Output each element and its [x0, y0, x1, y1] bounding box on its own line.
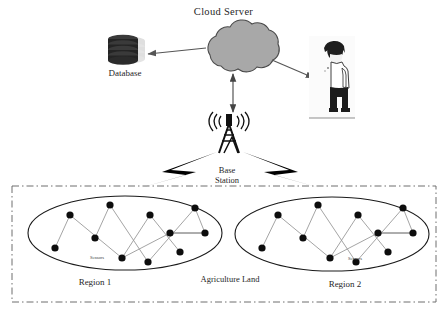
region-1-label: Region 1: [50, 277, 140, 287]
sensor-node: [146, 211, 153, 218]
region-2-label: Region 2: [300, 279, 390, 289]
region-2-sensors-label: Sensors: [320, 256, 390, 261]
diagram-canvas: Cloud Server Database Base Station Senso…: [0, 0, 447, 315]
database-label: Database: [90, 68, 160, 78]
sensor-node: [106, 201, 113, 208]
cloud-to-user-arrow: [272, 60, 314, 78]
sensor-node: [176, 248, 183, 255]
base-station-label-line2: Station: [196, 175, 258, 185]
sensor-node: [258, 244, 265, 251]
sensor-node: [166, 229, 173, 236]
sensor-node: [191, 204, 198, 211]
sensor-node: [384, 248, 391, 255]
cell-tower-icon: [209, 112, 249, 153]
sensor-node: [354, 211, 361, 218]
database-icon: [108, 35, 145, 65]
sensor-node: [51, 244, 58, 251]
sensor-node: [374, 229, 381, 236]
region-1-sensors-label: Sensors: [62, 255, 132, 260]
cloud-server-label: Cloud Server: [0, 6, 447, 17]
sensor-node: [274, 211, 281, 218]
sensor-node: [144, 258, 151, 265]
sensor-node: [201, 229, 208, 236]
sensor-node: [314, 201, 321, 208]
person-icon: [309, 36, 355, 118]
agriculture-land-label: Agriculture Land: [178, 274, 282, 284]
base-station-label-line1: Base: [196, 165, 258, 175]
cloud-to-database-arrow: [148, 48, 206, 54]
sensor-node: [399, 204, 406, 211]
sensor-node: [299, 234, 306, 241]
sensor-node: [409, 229, 416, 236]
sensor-node: [66, 211, 73, 218]
cloud-icon: [208, 20, 279, 72]
sensor-node: [91, 234, 98, 241]
diagram-vector-layer: [0, 0, 447, 315]
